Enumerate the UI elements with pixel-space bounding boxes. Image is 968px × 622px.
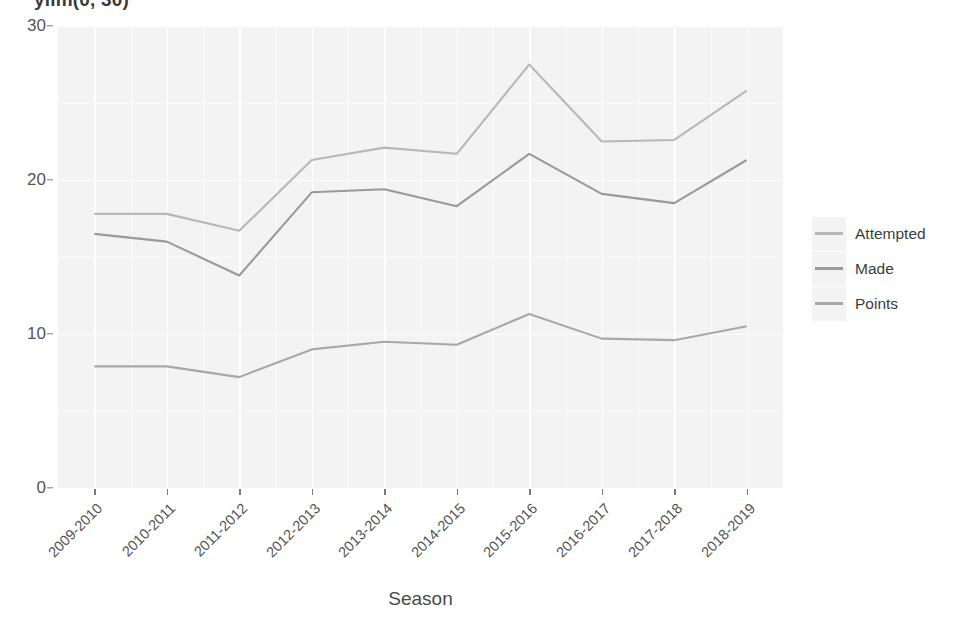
- legend-label: Made: [855, 260, 894, 278]
- x-axis-tick-mark: [529, 489, 530, 495]
- x-axis-tick-mark: [312, 489, 313, 495]
- legend-color-swatch: [815, 267, 843, 269]
- x-axis-tick-mark: [457, 489, 458, 495]
- legend-item-points[interactable]: Points: [812, 286, 962, 321]
- y-axis-tick-mark: [47, 487, 53, 488]
- legend-color-swatch: [815, 232, 843, 234]
- page-title: ylim(0, 30): [34, 0, 129, 11]
- series-line-points: [94, 314, 747, 377]
- series-line-attempted: [94, 65, 747, 231]
- y-axis-tick-mark: [47, 25, 53, 26]
- x-axis-tick-mark: [239, 489, 240, 495]
- y-axis-tick-label: 30: [6, 16, 46, 36]
- series-layer: [58, 26, 783, 488]
- chart-legend: AttemptedMadePoints: [812, 216, 962, 321]
- x-axis-title: Season: [58, 588, 783, 610]
- y-axis-tick-label: 0: [6, 478, 46, 498]
- y-axis-tick-mark: [47, 179, 53, 180]
- y-axis-tick-mark: [47, 333, 53, 334]
- legend-key: [812, 252, 846, 286]
- x-axis-tick-mark: [94, 489, 95, 495]
- x-axis-tick-mark: [674, 489, 675, 495]
- y-axis-tick-label: 20: [6, 170, 46, 190]
- legend-item-attempted[interactable]: Attempted: [812, 216, 962, 251]
- legend-color-swatch: [815, 302, 843, 304]
- x-axis-tick-mark: [602, 489, 603, 495]
- legend-label: Points: [855, 295, 898, 313]
- x-axis-tick-mark: [167, 489, 168, 495]
- y-axis-tick-label: 10: [6, 324, 46, 344]
- x-axis-tick-mark: [747, 489, 748, 495]
- legend-label: Attempted: [855, 225, 926, 243]
- y-axis: 0102030: [0, 26, 46, 488]
- legend-key: [812, 217, 846, 251]
- legend-key: [812, 287, 846, 321]
- x-axis-tick-mark: [384, 489, 385, 495]
- chart-panel: [58, 26, 783, 488]
- series-line-made: [94, 154, 747, 276]
- legend-item-made[interactable]: Made: [812, 251, 962, 286]
